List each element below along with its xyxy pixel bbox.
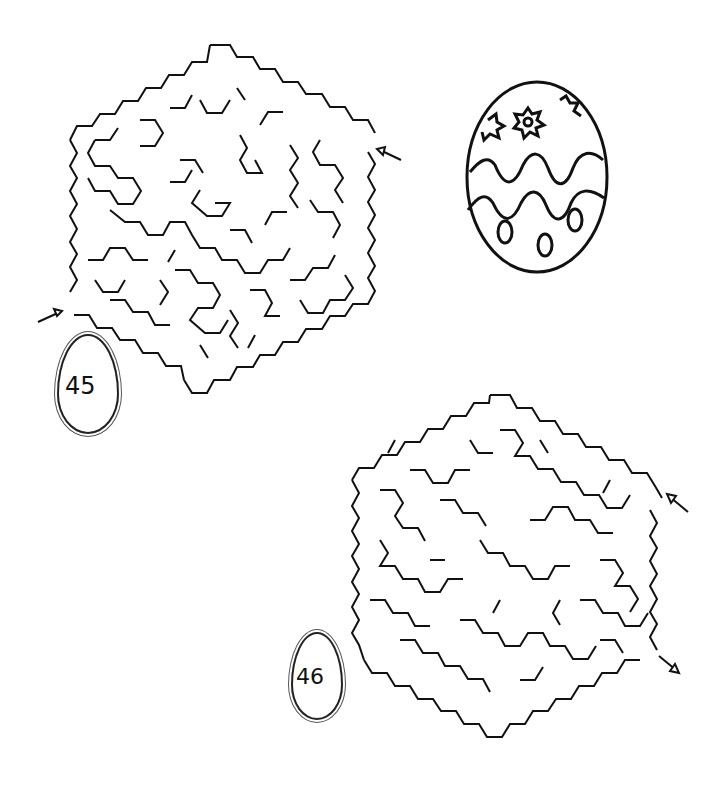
puzzle-number-45: 45 [65,372,96,400]
puzzle-number-46: 46 [296,664,324,689]
